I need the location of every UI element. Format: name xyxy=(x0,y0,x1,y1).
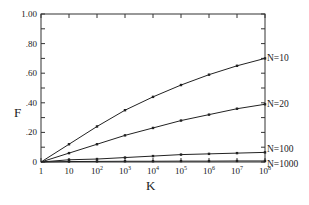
data-point xyxy=(152,160,154,162)
y-tick-label: 0 xyxy=(33,157,38,167)
data-point xyxy=(124,160,126,162)
plot-border xyxy=(41,14,265,162)
series-label: N=10 xyxy=(267,53,289,63)
data-point xyxy=(236,152,238,154)
data-point xyxy=(96,158,98,160)
y-axis: 0.20.40.60.801.00 xyxy=(21,9,265,167)
x-axis-label: K xyxy=(146,178,156,193)
data-point xyxy=(208,160,210,162)
data-point xyxy=(96,143,98,145)
data-point xyxy=(152,127,154,129)
data-point xyxy=(180,160,182,162)
series-label: N=20 xyxy=(267,99,289,109)
x-tick-label: 107 xyxy=(231,165,243,176)
data-point xyxy=(68,143,70,145)
data-point xyxy=(208,153,210,155)
data-point xyxy=(236,65,238,67)
data-point xyxy=(208,113,210,115)
series-label: N=1000 xyxy=(267,159,298,169)
y-axis-label: F xyxy=(14,105,21,120)
data-point xyxy=(264,57,266,59)
x-tick-label: 102 xyxy=(91,165,103,176)
series-n-100: N=100 xyxy=(41,144,294,162)
data-point xyxy=(236,108,238,110)
data-point xyxy=(96,125,98,127)
data-point xyxy=(124,109,126,111)
data-point xyxy=(152,96,154,98)
series-n-10: N=10 xyxy=(41,53,289,162)
x-tick-label: 106 xyxy=(203,165,215,176)
data-point xyxy=(180,153,182,155)
x-tick-label: 104 xyxy=(147,165,159,176)
data-point xyxy=(264,151,266,153)
y-tick-label: .40 xyxy=(26,98,38,108)
y-tick-label: 1.00 xyxy=(21,9,37,19)
data-point xyxy=(180,84,182,86)
data-point xyxy=(180,119,182,121)
data-point xyxy=(68,160,70,162)
data-point xyxy=(124,156,126,158)
data-point xyxy=(208,73,210,75)
y-tick-label: .80 xyxy=(26,39,38,49)
data-point xyxy=(96,160,98,162)
plot-frame xyxy=(41,14,265,162)
y-tick-label: .60 xyxy=(26,68,38,78)
data-point xyxy=(236,160,238,162)
data-point xyxy=(152,155,154,157)
x-tick-label: 1 xyxy=(39,166,44,176)
x-tick-label: 10 xyxy=(65,166,75,176)
data-point xyxy=(124,134,126,136)
data-point xyxy=(68,152,70,154)
chart: 0.20.40.60.801.00 1101021031041051061071… xyxy=(0,0,309,205)
series-label: N=100 xyxy=(267,144,294,154)
data-point xyxy=(264,103,266,105)
x-tick-label: 105 xyxy=(175,165,187,176)
series-group: N=10N=20N=100N=1000 xyxy=(41,53,298,169)
x-tick-label: 103 xyxy=(119,165,131,176)
data-point xyxy=(264,160,266,162)
y-tick-label: .20 xyxy=(26,127,38,137)
